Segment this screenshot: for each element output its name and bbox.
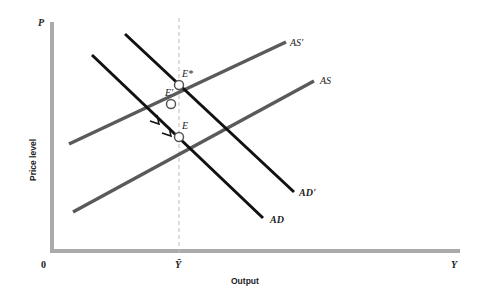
y-axis-title: Price level: [28, 139, 38, 181]
potential-output-label: Ȳ: [175, 259, 182, 270]
y-axis-symbol: P: [38, 17, 45, 28]
label-e-prime: E': [164, 87, 174, 98]
label-as-prime: AS': [289, 37, 304, 48]
point-e: [175, 133, 184, 142]
origin-label: 0: [41, 259, 46, 270]
as-prime-curve: [69, 42, 286, 144]
x-axis-title: Output: [231, 276, 259, 286]
x-axis-symbol: Y: [451, 259, 458, 270]
label-ad: AD: [269, 214, 284, 225]
point-e-star: [175, 81, 184, 90]
label-ad-prime: AD': [298, 187, 316, 198]
label-e: E: [181, 120, 188, 131]
ad-as-diagram: E' E* E AS AS' AD AD' P Y 0 Ȳ Output Pri…: [0, 0, 483, 304]
point-e-prime: [167, 100, 176, 109]
label-as: AS: [319, 75, 331, 86]
label-e-star: E*: [181, 68, 193, 79]
as-curve: [73, 81, 314, 212]
